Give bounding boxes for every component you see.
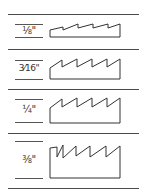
saw-blade-profile-4: [0, 0, 147, 192]
divider-line: [8, 188, 139, 189]
